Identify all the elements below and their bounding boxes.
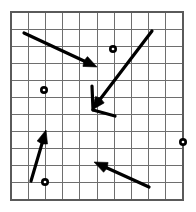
vector-center-short-down-shaft <box>92 86 93 110</box>
vector-diagram-canvas <box>0 0 196 212</box>
point-top-center-center <box>112 48 115 51</box>
vector-upper-left-to-center-arrowhead <box>83 57 97 67</box>
point-mid-left-center <box>43 89 46 92</box>
point-right-edge-center <box>182 141 185 144</box>
vector-layer <box>24 31 152 187</box>
vector-center-short-right-shaft <box>93 110 115 116</box>
point-bottom-left-center <box>44 181 47 184</box>
vector-upper-right-to-center-shaft <box>96 31 152 104</box>
vector-upper-left-to-center-shaft <box>24 33 91 64</box>
vector-bottom-right-to-left-shaft <box>101 165 149 187</box>
vector-bottom-right-to-left-arrowhead <box>94 162 108 172</box>
vector-diagram-figure <box>0 0 196 212</box>
